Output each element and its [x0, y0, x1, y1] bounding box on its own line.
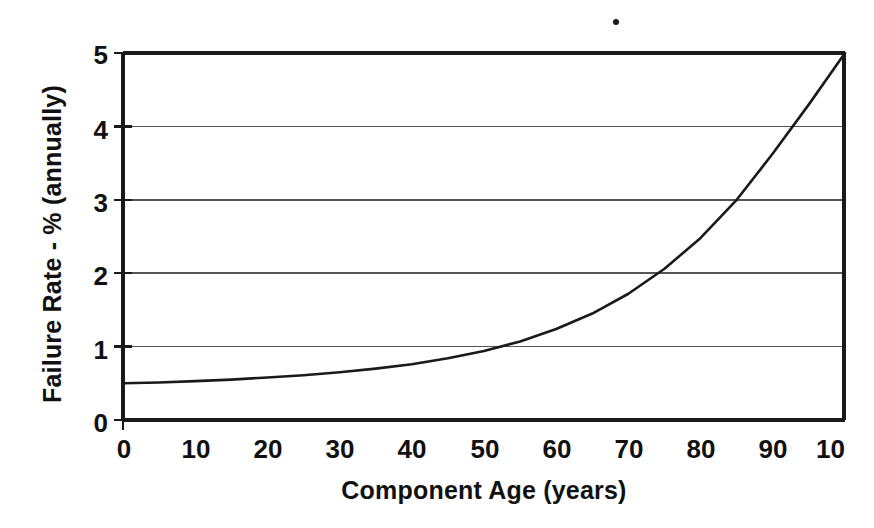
gridlines — [123, 126, 845, 346]
scan-speck-artifact — [613, 19, 619, 25]
plot-area — [0, 0, 874, 528]
failure-rate-curve — [123, 53, 845, 383]
chart-figure: Failure Rate - % (annually) Component Ag… — [0, 0, 874, 528]
plot-frame — [123, 53, 845, 420]
